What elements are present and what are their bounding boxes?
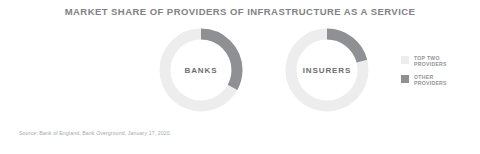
legend-swatch-other-icon (401, 75, 409, 83)
legend-item-other: OTHER PROVIDERS (401, 74, 477, 87)
legend-label-top-two: TOP TWO PROVIDERS (414, 55, 447, 68)
legend-label-other: OTHER PROVIDERS (414, 74, 447, 87)
legend-item-top-two: TOP TWO PROVIDERS (401, 55, 477, 68)
legend-swatch-top-two-icon (401, 56, 409, 64)
chart-figure: MARKET SHARE OF PROVIDERS OF INFRASTRUCT… (0, 0, 480, 154)
donut-svg-insurers (281, 24, 373, 116)
source-note: Source: Bank of England, Bank Overground… (19, 130, 171, 136)
donut-chart-banks: BANKS (155, 24, 247, 116)
donut-svg-banks (155, 24, 247, 116)
donut-chart-insurers: INSURERS (281, 24, 373, 116)
chart-legend: TOP TWO PROVIDERS OTHER PROVIDERS (401, 55, 477, 93)
page-title: MARKET SHARE OF PROVIDERS OF INFRASTRUCT… (0, 6, 480, 17)
